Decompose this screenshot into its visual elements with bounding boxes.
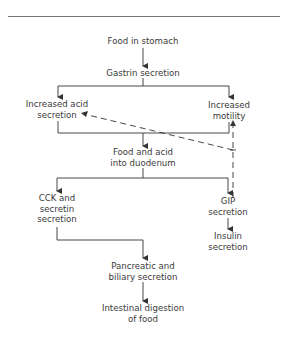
node-pancreatic-biliary-secretion: Pancreatic and biliary secretion: [109, 261, 178, 282]
label-line: secretion: [208, 242, 248, 253]
label-line: into duodenum: [110, 158, 175, 169]
label-line: Food and acid: [110, 147, 175, 158]
label-line: Intestinal digestion: [102, 303, 184, 314]
label-line: CCK and: [37, 193, 77, 204]
label-line: Pancreatic and: [109, 261, 178, 272]
label-line: secretion: [26, 110, 88, 121]
label-line: Insulin: [208, 231, 248, 242]
node-intestinal-digestion: Intestinal digestion of food: [102, 303, 184, 324]
label-line: secretion: [37, 214, 77, 225]
node-cck-secretin-secretion: CCK and secretin secretion: [37, 193, 77, 225]
node-increased-acid-secretion: Increased acid secretion: [26, 99, 88, 120]
node-gip-secretion: GIP secretion: [208, 196, 248, 217]
label-line: motility: [208, 111, 250, 122]
label-line: secretin: [37, 204, 77, 215]
node-gastrin-secretion: Gastrin secretion: [106, 68, 179, 79]
flow-connectors: [0, 0, 291, 339]
label-line: Increased acid: [26, 99, 88, 110]
label-line: GIP: [208, 196, 248, 207]
label-line: biliary secretion: [109, 272, 178, 283]
label-line: of food: [102, 314, 184, 325]
label: Food in stomach: [108, 36, 179, 46]
node-increased-motility: Increased motility: [208, 100, 250, 121]
label: Gastrin secretion: [106, 68, 179, 78]
node-food-in-stomach: Food in stomach: [108, 36, 179, 47]
node-insulin-secretion: Insulin secretion: [208, 231, 248, 252]
label-line: secretion: [208, 207, 248, 218]
label-line: Increased: [208, 100, 250, 111]
node-food-acid-duodenum: Food and acid into duodenum: [110, 147, 175, 168]
